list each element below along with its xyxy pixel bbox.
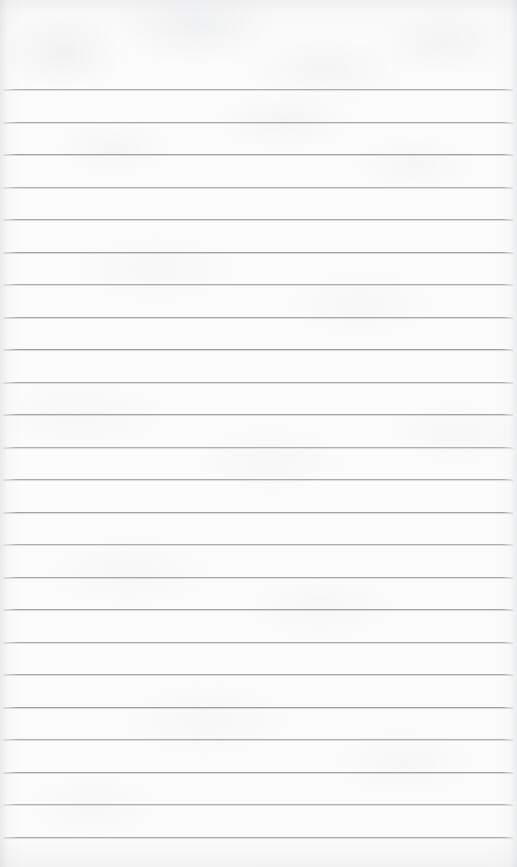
rule-line xyxy=(3,317,513,318)
rule-line xyxy=(3,414,513,415)
rule-line xyxy=(3,382,513,383)
rule-line xyxy=(3,674,513,675)
rule-line xyxy=(3,544,513,545)
rule-line xyxy=(3,154,513,155)
rule-line xyxy=(3,837,513,838)
rule-line xyxy=(3,219,513,220)
rule-line xyxy=(3,642,513,643)
rule-line xyxy=(3,512,513,513)
scanned-page xyxy=(0,0,517,867)
rule-line xyxy=(3,609,513,610)
rule-line xyxy=(3,479,513,480)
rule-line xyxy=(3,447,513,448)
rule-line xyxy=(3,577,513,578)
rule-line xyxy=(3,739,513,740)
rule-line xyxy=(3,122,513,123)
rule-line xyxy=(3,804,513,805)
rule-line xyxy=(3,349,513,350)
rule-line xyxy=(3,772,513,773)
rule-line xyxy=(3,252,513,253)
rule-line xyxy=(3,707,513,708)
ruled-lines-group xyxy=(0,0,517,867)
rule-line xyxy=(3,284,513,285)
rule-line xyxy=(3,187,513,188)
rule-line xyxy=(3,89,513,90)
